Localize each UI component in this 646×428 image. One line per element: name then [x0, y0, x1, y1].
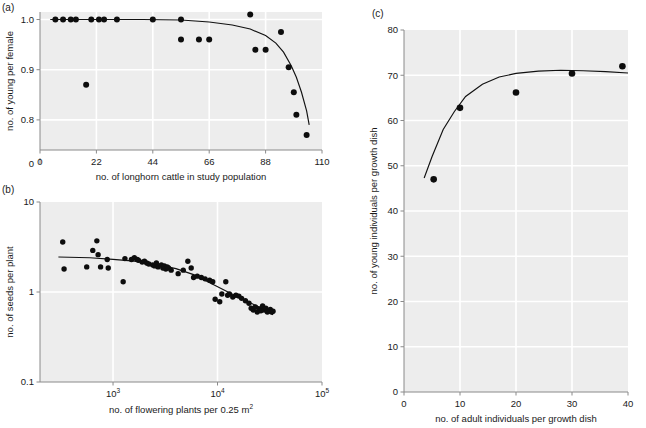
panel-a-data-point: [68, 17, 74, 23]
panel-a-x-tick-label: 22: [91, 156, 102, 167]
panel-b-data-point: [219, 291, 224, 296]
panel-a-data-point: [150, 17, 156, 23]
panel-a-data-point: [252, 47, 258, 53]
panel-b-data-point: [105, 257, 110, 262]
panel-a-data-point: [178, 17, 184, 23]
panel-a-data-point: [263, 47, 269, 53]
panel-a-y-tick-label: 0.9: [21, 64, 34, 75]
panel-c-data-point: [569, 70, 576, 77]
panel-c-y-axis-title: no. of young individuals per growth dish: [368, 128, 379, 295]
panel-b-data-point: [98, 264, 103, 269]
panel-a-data-point: [247, 12, 253, 18]
panel-a-x-tick-label: 88: [260, 156, 271, 167]
panel-c-y-tick-label: 80: [387, 24, 398, 35]
panel-c-x-tick-label: 10: [455, 398, 466, 409]
panel-c-x-tick-label: 0: [401, 398, 406, 409]
panel-b-data-point: [60, 239, 65, 244]
panel-c-y-tick-label: 70: [387, 70, 398, 81]
panel-c-y-tick-label: 50: [387, 160, 398, 171]
panel-c-x-tick-label: 20: [511, 398, 522, 409]
panel-a-data-point: [96, 17, 102, 23]
panel-a-data-point: [206, 37, 212, 43]
panel-a-x-tick-label: 66: [204, 156, 215, 167]
panel-b-x-axis-title: no. of flowering plants per 0.25 m2: [109, 403, 253, 415]
panel-c-y-tick-label: 20: [387, 296, 398, 307]
panel-b-x-tick-label: 105: [315, 387, 330, 399]
panel-b-y-tick-label: 0.1: [21, 376, 34, 387]
panel-c-y-tick-label: 30: [387, 251, 398, 262]
panel-a-data-point: [293, 112, 299, 118]
panel-b-x-tick-label: 104: [210, 387, 225, 399]
panel-b-data-point: [223, 279, 228, 284]
panel-a-data-point: [196, 37, 202, 43]
panel-b-data-point: [61, 266, 66, 271]
panel-c-y-tick-label: 40: [387, 205, 398, 216]
panel-a-data-point: [291, 89, 297, 95]
panel-b-data-point: [106, 265, 111, 270]
panel-c-data-point: [619, 63, 626, 70]
panel-c-x-axis-title: no. of adult individuals per growth dish: [435, 413, 597, 424]
panel-c-data-point: [430, 176, 437, 183]
panel-b-data-point: [210, 279, 215, 284]
panel-a-y-tick-label: 0.8: [21, 114, 34, 125]
panel-b-data-point: [212, 297, 217, 302]
panel-a-data-point: [114, 17, 120, 23]
panel-c-data-point: [513, 89, 520, 96]
panel-b-data-point: [120, 279, 125, 284]
panel-a: (a) 0.80.91.00022446688110no. of longhor…: [0, 0, 330, 190]
panel-a-data-point: [73, 17, 79, 23]
panel-a-y-axis-title: no. of young per female: [4, 31, 15, 131]
panel-b: (b) 0.1110103104105no. of flowering plan…: [0, 182, 330, 428]
panel-a-data-point: [60, 17, 66, 23]
panel-c-x-tick-label: 30: [567, 398, 578, 409]
panel-b-x-tick-base: 10: [210, 388, 221, 399]
panel-a-x-tick-label: 110: [314, 156, 329, 167]
panel-c-data-point: [457, 105, 464, 112]
panel-b-data-point: [122, 256, 127, 261]
panel-a-data-point: [101, 17, 107, 23]
figure-three-panel-density-dependence: (a) 0.80.91.00022446688110no. of longhor…: [0, 0, 646, 428]
panel-b-data-point: [246, 301, 251, 306]
panel-c-y-tick-label: 60: [387, 115, 398, 126]
panel-a-data-point: [52, 17, 58, 23]
panel-b-x-axis-title-exponent: 2: [249, 403, 253, 410]
panel-a-plot: 0.80.91.00022446688110no. of longhorn ca…: [0, 0, 330, 190]
panel-a-data-point: [178, 37, 184, 43]
panel-c: (c) 01020304050607080010203040no. of adu…: [336, 0, 646, 428]
panel-c-plot: 01020304050607080010203040no. of adult i…: [336, 0, 646, 428]
panel-b-data-point: [168, 267, 173, 272]
panel-b-data-point: [94, 238, 99, 243]
panel-b-plot: 0.1110103104105no. of flowering plants p…: [0, 182, 330, 428]
panel-a-data-point: [286, 64, 292, 70]
panel-b-y-axis-title: no. of seeds per plant: [4, 246, 15, 338]
panel-b-data-point: [189, 265, 194, 270]
panel-b-x-tick-exponent: 4: [221, 387, 225, 394]
panel-a-data-point: [83, 82, 89, 88]
panel-b-data-point: [270, 309, 275, 314]
panel-c-x-tick-label: 40: [623, 398, 634, 409]
panel-b-x-tick-base: 10: [315, 388, 326, 399]
panel-a-data-point: [88, 17, 94, 23]
panel-b-data-point: [175, 271, 180, 276]
panel-a-y-origin-label: 0: [29, 158, 34, 169]
panel-b-data-point: [181, 267, 186, 272]
panel-b-x-tick-label: 103: [106, 387, 121, 399]
panel-b-x-tick-base: 10: [106, 388, 117, 399]
panel-b-x-tick-exponent: 5: [325, 387, 329, 394]
panel-c-y-tick-label: 10: [387, 341, 398, 352]
panel-b-y-tick-label: 1: [29, 286, 34, 297]
panel-b-data-point: [90, 248, 95, 253]
panel-b-data-point: [185, 258, 190, 263]
panel-b-x-tick-exponent: 3: [117, 387, 121, 394]
panel-a-x-tick-label: 44: [148, 156, 159, 167]
panel-b-x-axis-title-main: no. of flowering plants per 0.25 m: [109, 404, 250, 415]
panel-c-y-tick-label: 0: [393, 386, 398, 397]
panel-b-data-point: [217, 299, 222, 304]
panel-b-y-tick-label: 10: [23, 196, 34, 207]
panel-b-data-point: [95, 252, 100, 257]
panel-a-y-tick-label: 1.0: [21, 14, 34, 25]
panel-a-data-point: [278, 29, 284, 35]
panel-a-x-tick-label: 0: [37, 156, 42, 167]
panel-b-data-point: [84, 264, 89, 269]
panel-a-x-axis-title: no. of longhorn cattle in study populati…: [96, 171, 267, 182]
